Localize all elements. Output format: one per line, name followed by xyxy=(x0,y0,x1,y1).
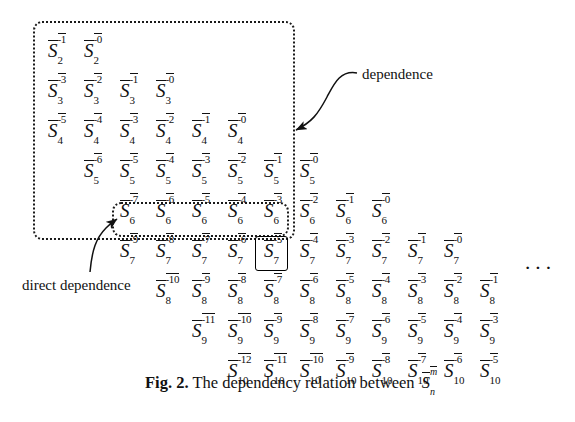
symbol-S-8--6: S-68 xyxy=(300,280,310,300)
symbol-superscript: -11 xyxy=(202,313,215,325)
symbol-base: S-28 xyxy=(444,280,454,300)
symbol-S-9--9: S-99 xyxy=(264,320,274,340)
symbol-base: S-67 xyxy=(228,240,238,260)
symbol-S-9--4: S-49 xyxy=(444,320,454,340)
symbol-superscript: -1 xyxy=(346,193,355,205)
symbol-S-8--4: S-48 xyxy=(372,280,382,300)
symbol-superscript: -0 xyxy=(382,193,391,205)
symbol-S-6--1: S-16 xyxy=(336,200,346,220)
symbol-superscript: -12 xyxy=(238,353,252,365)
selected-element-box xyxy=(255,236,288,271)
symbol-base: S-69 xyxy=(372,320,382,340)
symbol-subscript: 9 xyxy=(454,335,460,346)
symbol-subscript: 8 xyxy=(202,295,208,306)
symbol-base: S-68 xyxy=(300,280,310,300)
symbol-base: S-18 xyxy=(480,280,490,300)
symbol-subscript: 6 xyxy=(310,215,316,226)
symbol-superscript: -6 xyxy=(454,353,463,365)
symbol-subscript: 6 xyxy=(346,215,352,226)
symbol-S-9--8: S-89 xyxy=(300,320,310,340)
symbol-subscript: 8 xyxy=(274,295,280,306)
figure-2: S-12S-02S-33S-23S-13S-03S-54S-44S-34S-24… xyxy=(0,0,575,422)
symbol-S-8--1: S-18 xyxy=(480,280,490,300)
symbol-base: S-58 xyxy=(336,280,346,300)
symbol-base: S-77 xyxy=(192,240,202,260)
symbol-S-9--10: S-109 xyxy=(228,320,238,340)
symbol-superscript: -8 xyxy=(310,313,319,325)
symbol-base: S-87 xyxy=(156,240,166,260)
symbol-superscript: -1 xyxy=(490,273,499,285)
symbol-subscript: 7 xyxy=(418,255,424,266)
symbol-superscript: -4 xyxy=(310,233,319,245)
symbol-S-8--9: S-98 xyxy=(192,280,202,300)
symbol-superscript: -7 xyxy=(418,353,427,365)
symbol-subscript: 7 xyxy=(346,255,352,266)
symbol-superscript: -0 xyxy=(454,233,463,245)
symbol-S-8--10: S-108 xyxy=(156,280,166,300)
symbol-superscript: -4 xyxy=(454,313,463,325)
symbol-base: S-109 xyxy=(228,320,238,340)
symbol-subscript: 9 xyxy=(238,335,244,346)
symbol-subscript: 7 xyxy=(454,255,460,266)
symbol-subscript: 9 xyxy=(382,335,388,346)
symbol-superscript: -0 xyxy=(310,153,319,165)
symbol-superscript: -10 xyxy=(166,273,180,285)
symbol-subscript: 9 xyxy=(202,335,208,346)
symbol-base: S-98 xyxy=(192,280,202,300)
symbol-subscript: 8 xyxy=(454,295,460,306)
symbol-subscript: 9 xyxy=(490,335,496,346)
symbol-superscript: -8 xyxy=(238,273,247,285)
symbol-superscript: -7 xyxy=(346,313,355,325)
symbol-S-5--0: S-05 xyxy=(300,160,310,180)
symbol-base: S-47 xyxy=(300,240,310,260)
ellipsis-marker: ··· xyxy=(524,255,555,281)
symbol-base: S-89 xyxy=(300,320,310,340)
symbol-base: S-27 xyxy=(372,240,382,260)
symbol-S-7--1: S-17 xyxy=(408,240,418,260)
symbol-subscript: 8 xyxy=(310,295,316,306)
symbol-S-8--7: S-78 xyxy=(264,280,274,300)
symbol-subscript: 7 xyxy=(238,255,244,266)
symbol-subscript: 7 xyxy=(310,255,316,266)
symbol-S-9--11: S-119 xyxy=(192,320,202,340)
symbol-subscript: 8 xyxy=(166,295,172,306)
symbol-S-6--0: S-06 xyxy=(372,200,382,220)
symbol-subscript: 9 xyxy=(346,335,352,346)
symbol-superscript: -5 xyxy=(490,353,499,365)
symbol-S-8--3: S-38 xyxy=(408,280,418,300)
symbol-base: S-07 xyxy=(444,240,454,260)
symbol-subscript: 8 xyxy=(418,295,424,306)
symbol-S-7--4: S-47 xyxy=(300,240,310,260)
symbol-superscript: -11 xyxy=(274,353,287,365)
symbol-S-9--7: S-79 xyxy=(336,320,346,340)
symbol-base: S-39 xyxy=(480,320,490,340)
symbol-subscript: 8 xyxy=(382,295,388,306)
symbol-S-7--7: S-77 xyxy=(192,240,202,260)
symbol-base: S-06 xyxy=(372,200,382,220)
symbol-subscript: 9 xyxy=(418,335,424,346)
symbol-subscript: 7 xyxy=(130,255,136,266)
symbol-superscript: -5 xyxy=(346,273,355,285)
symbol-base: S-79 xyxy=(336,320,346,340)
symbol-superscript: -10 xyxy=(238,313,252,325)
figure-caption-text: The dependency relation between xyxy=(192,373,414,392)
symbol-base: S-17 xyxy=(408,240,418,260)
symbol-base: S-05 xyxy=(300,160,310,180)
symbol-S-7--3: S-37 xyxy=(336,240,346,260)
symbol-superscript: -9 xyxy=(274,313,283,325)
symbol-S-7--6: S-67 xyxy=(228,240,238,260)
symbol-superscript: -3 xyxy=(346,233,355,245)
symbol-superscript: -6 xyxy=(310,273,319,285)
symbol-subscript: 8 xyxy=(346,295,352,306)
direct-dependence-label: direct dependence xyxy=(22,277,131,294)
symbol-S-6--2: S-26 xyxy=(300,200,310,220)
symbol-base: S-26 xyxy=(300,200,310,220)
symbol-subscript: 8 xyxy=(490,295,496,306)
caption-symbol-subscript: n xyxy=(430,387,435,397)
symbol-superscript: -10 xyxy=(310,353,324,365)
symbol-superscript: -2 xyxy=(382,233,391,245)
symbol-S-9--6: S-69 xyxy=(372,320,382,340)
caption-symbol-superscript: m xyxy=(430,366,437,377)
figure-caption: Fig. 2. The dependency relation between … xyxy=(0,372,575,393)
symbol-base: S-48 xyxy=(372,280,382,300)
